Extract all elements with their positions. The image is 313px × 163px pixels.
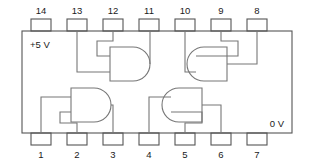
vcc-rail-label: +5 V [30,39,50,50]
ic-package-body [22,31,292,133]
gate-bottom-right [149,88,221,133]
pin-label-9: 9 [218,5,223,16]
pin-tab-5[interactable] [175,133,195,145]
pin-tab-12[interactable] [103,19,123,31]
pin-label-14: 14 [36,5,47,16]
pin-label-8: 8 [254,5,259,16]
top-pin-tabs [31,19,267,31]
pin-label-10: 10 [180,5,191,16]
top-pin-labels: 14 13 12 11 10 9 8 [36,5,260,16]
wire-pin1-to-gate-input [41,97,71,133]
wire-gate-output-to-pin8 [227,31,257,64]
and-gate-symbol [187,47,227,81]
pin-tab-2[interactable] [67,133,87,145]
and-gate-symbol [110,47,150,81]
wire-pin9-to-gate-input [196,31,238,56]
ic-diagram-canvas: 14 13 12 11 10 9 8 1 2 3 4 5 6 7 +5 V 0 … [0,0,313,163]
pin-tab-3[interactable] [103,133,123,145]
pin-label-13: 13 [72,5,83,16]
and-gate-symbol [71,88,111,122]
pin-tab-10[interactable] [175,19,195,31]
gate-bottom-left [41,88,113,133]
bottom-pin-tabs [31,133,267,145]
wire-gate-output-to-pin6 [202,105,221,133]
wire-pin4-to-gate-input [149,97,171,133]
pin-label-1: 1 [38,149,43,160]
pin-label-7: 7 [254,149,259,160]
pin-label-6: 6 [218,149,223,160]
pin-label-5: 5 [182,149,187,160]
pin-tab-11[interactable] [139,19,159,31]
gnd-rail-label: 0 V [270,118,285,129]
pin-label-4: 4 [146,149,151,160]
wire-pin13-to-gate-input [77,31,110,72]
pin-tab-8[interactable] [247,19,267,31]
gate-top-right [185,31,257,81]
pin-label-3: 3 [110,149,115,160]
pin-tab-1[interactable] [31,133,51,145]
gate-top-left [77,31,150,81]
and-gate-symbol [162,88,202,122]
pin-tab-6[interactable] [211,133,231,145]
bottom-pin-labels: 1 2 3 4 5 6 7 [38,149,259,160]
wire-gate-output-to-pin3 [111,105,113,133]
wire-pin2-to-gate-input [60,112,77,133]
pin-tab-13[interactable] [67,19,87,31]
pin-tab-7[interactable] [247,133,267,145]
pin-tab-14[interactable] [31,19,51,31]
pin-label-12: 12 [108,5,119,16]
pin-tab-9[interactable] [211,19,231,31]
pin-tab-4[interactable] [139,133,159,145]
wire-pin5-to-gate-input [171,112,202,133]
pin-label-11: 11 [144,5,154,16]
pin-label-2: 2 [74,149,79,160]
ic-pinout-diagram: 14 13 12 11 10 9 8 1 2 3 4 5 6 7 +5 V 0 … [0,0,313,163]
wire-pin12-to-gate-input [97,31,113,56]
